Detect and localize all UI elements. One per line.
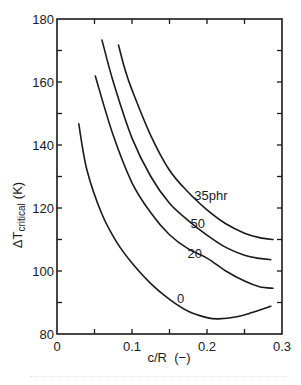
y-tick-label: 180: [32, 12, 54, 27]
y-tick-label: 160: [32, 75, 54, 90]
y-tick-label: 120: [32, 201, 54, 216]
y-axis-label-main: ΔT: [10, 231, 25, 248]
y-axis-label-unit: (K): [10, 182, 25, 199]
y-tick-label: 100: [32, 264, 54, 279]
curve-label-50: 50: [191, 216, 205, 231]
y-axis-label-subscript: critical: [16, 203, 27, 231]
plot-border: [57, 19, 282, 334]
y-axis-label: ΔTcritical(K): [10, 182, 27, 248]
curve-label-20: 20: [188, 246, 202, 261]
curve-label-35phr: 35phr: [194, 188, 228, 203]
axis-tick-labels: 00.10.20.380100120140160180: [32, 12, 291, 354]
data-curves: [79, 40, 273, 319]
plot-frame: [57, 19, 282, 334]
curve-50: [102, 40, 271, 260]
x-tick-label: 0.3: [273, 339, 291, 354]
y-tick-label: 140: [32, 138, 54, 153]
x-axis-label: c/R (−): [148, 350, 191, 365]
svg-text:ΔTcritical(K): ΔTcritical(K): [10, 182, 27, 248]
y-tick-label: 80: [40, 327, 54, 342]
curve-35phr: [119, 45, 274, 239]
chart-canvas: 00.10.20.380100120140160180 35phr50200 c…: [0, 0, 301, 385]
figure-caption-fragment: [30, 376, 290, 380]
curve-label-0: 0: [177, 291, 184, 306]
x-tick-label: 0.2: [198, 339, 216, 354]
axis-ticks: [57, 19, 282, 334]
x-tick-label: 0: [53, 339, 60, 354]
x-tick-label: 0.1: [123, 339, 141, 354]
curve-0: [79, 124, 271, 319]
